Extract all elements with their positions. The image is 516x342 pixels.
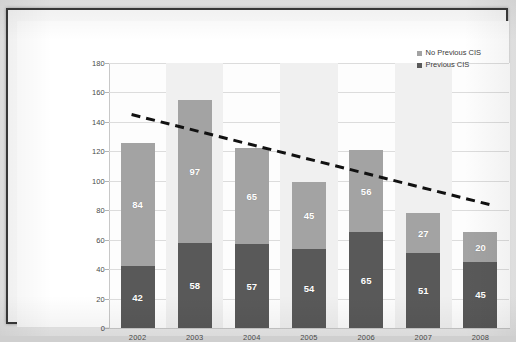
y-axis-tick-mark: [105, 328, 109, 329]
y-axis-tick-mark: [105, 299, 109, 300]
bar-value-label: 51: [418, 285, 429, 296]
legend-swatch-no-previous-cis: [417, 51, 422, 56]
bar-segment-previous-cis: 65: [349, 232, 383, 328]
bar-value-label: 42: [132, 292, 143, 303]
y-axis-tick-label: 40: [96, 265, 105, 274]
photo-frame-border: 020406080100120140160180 428458975765544…: [6, 8, 508, 324]
bar-segment-previous-cis: 54: [292, 249, 326, 329]
y-axis-tick-label: 100: [92, 176, 105, 185]
bar-segment-previous-cis: 51: [406, 253, 440, 328]
y-axis-tick-label: 160: [92, 88, 105, 97]
y-axis-tick-mark: [105, 210, 109, 211]
bar-value-label: 58: [189, 280, 200, 291]
y-axis-tick-label: 20: [96, 294, 105, 303]
y-axis-tick-label: 80: [96, 206, 105, 215]
bar-value-label: 97: [189, 166, 200, 177]
bar-value-label: 27: [418, 228, 429, 239]
bar-value-label: 45: [304, 210, 315, 221]
stacked-bar: 5897: [178, 100, 212, 328]
y-axis-tick-mark: [105, 240, 109, 241]
legend-label-no-previous-cis: No Previous CIS: [426, 47, 481, 59]
y-axis-tick-mark: [105, 181, 109, 182]
stacked-bar: 5765: [235, 148, 269, 328]
y-axis-tick-mark: [105, 122, 109, 123]
y-axis-tick-label: 140: [92, 117, 105, 126]
y-axis-tick-mark: [105, 63, 109, 64]
y-axis-tick-mark: [105, 269, 109, 270]
bar-segment-no-previous-cis: 84: [121, 143, 155, 267]
bar-value-label: 65: [247, 191, 258, 202]
chart-card: 020406080100120140160180 428458975765544…: [49, 39, 489, 321]
stacked-bar: 5127: [406, 213, 440, 328]
bar-segment-no-previous-cis: 65: [235, 148, 269, 244]
stacked-bar: 5445: [292, 182, 326, 328]
legend-item: Previous CIS: [417, 59, 481, 71]
legend-label-previous-cis: Previous CIS: [426, 59, 470, 71]
bar-value-label: 57: [247, 281, 258, 292]
bar-segment-no-previous-cis: 56: [349, 150, 383, 232]
x-axis-tick-label: 2005: [279, 333, 339, 342]
stacked-bar: 6556: [349, 150, 383, 328]
bar-segment-no-previous-cis: 27: [406, 213, 440, 253]
x-axis-tick-label: 2002: [108, 333, 168, 342]
bar-segment-previous-cis: 58: [178, 243, 212, 328]
bar-segment-previous-cis: 42: [121, 266, 155, 328]
bar-value-label: 84: [132, 199, 143, 210]
x-axis-tick-label: 2004: [222, 333, 282, 342]
y-axis-tick-label: 60: [96, 235, 105, 244]
x-axis-tick-label: 2007: [393, 333, 453, 342]
legend-swatch-previous-cis: [417, 63, 422, 68]
bar-segment-no-previous-cis: 45: [292, 182, 326, 248]
bar-value-label: 65: [361, 275, 372, 286]
stacked-bar: 4284: [121, 143, 155, 329]
bar-value-label: 45: [475, 289, 486, 300]
y-axis-tick-label: 180: [92, 59, 105, 68]
y-axis-tick-mark: [105, 151, 109, 152]
x-axis-tick-label: 2008: [450, 333, 510, 342]
bar-segment-previous-cis: 45: [463, 262, 497, 328]
bar-value-label: 56: [361, 186, 372, 197]
bar-segment-no-previous-cis: 97: [178, 100, 212, 243]
x-axis-tick-label: 2003: [165, 333, 225, 342]
chart-legend: No Previous CIS Previous CIS: [417, 47, 481, 71]
bar-segment-no-previous-cis: 20: [463, 232, 497, 261]
y-axis-tick-mark: [105, 92, 109, 93]
bar-value-label: 54: [304, 283, 315, 294]
bar-value-label: 20: [475, 242, 486, 253]
plot-region: 020406080100120140160180 428458975765544…: [109, 63, 509, 328]
bar-segment-previous-cis: 57: [235, 244, 269, 328]
x-axis-tick-label: 2006: [336, 333, 396, 342]
stacked-bar: 4520: [463, 232, 497, 328]
chart-paper: 020406080100120140160180 428458975765544…: [17, 21, 509, 327]
y-axis-tick-label: 120: [92, 147, 105, 156]
legend-item: No Previous CIS: [417, 47, 481, 59]
